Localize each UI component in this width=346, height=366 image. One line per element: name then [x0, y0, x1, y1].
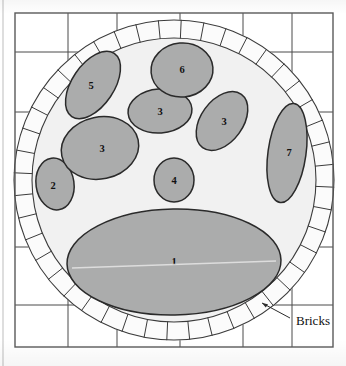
stone-4-stone-4: 4	[154, 158, 194, 202]
figure-canvas: 123334567Bricks	[0, 0, 346, 366]
stone-4-label: 4	[171, 175, 177, 186]
stone-6-label: 6	[179, 64, 184, 75]
archaeological-plan-svg: 123334567Bricks	[0, 0, 346, 366]
stone-3a-label: 3	[99, 143, 104, 154]
stone-1-label: 1	[171, 256, 176, 267]
bricks-annotation-label: Bricks	[296, 313, 330, 328]
stone-2-label: 2	[50, 180, 55, 191]
stone-3c-label: 3	[221, 116, 226, 127]
stone-3b-label: 3	[157, 106, 162, 117]
stone-7-label: 7	[286, 147, 291, 158]
stone-5-label: 5	[88, 80, 93, 91]
